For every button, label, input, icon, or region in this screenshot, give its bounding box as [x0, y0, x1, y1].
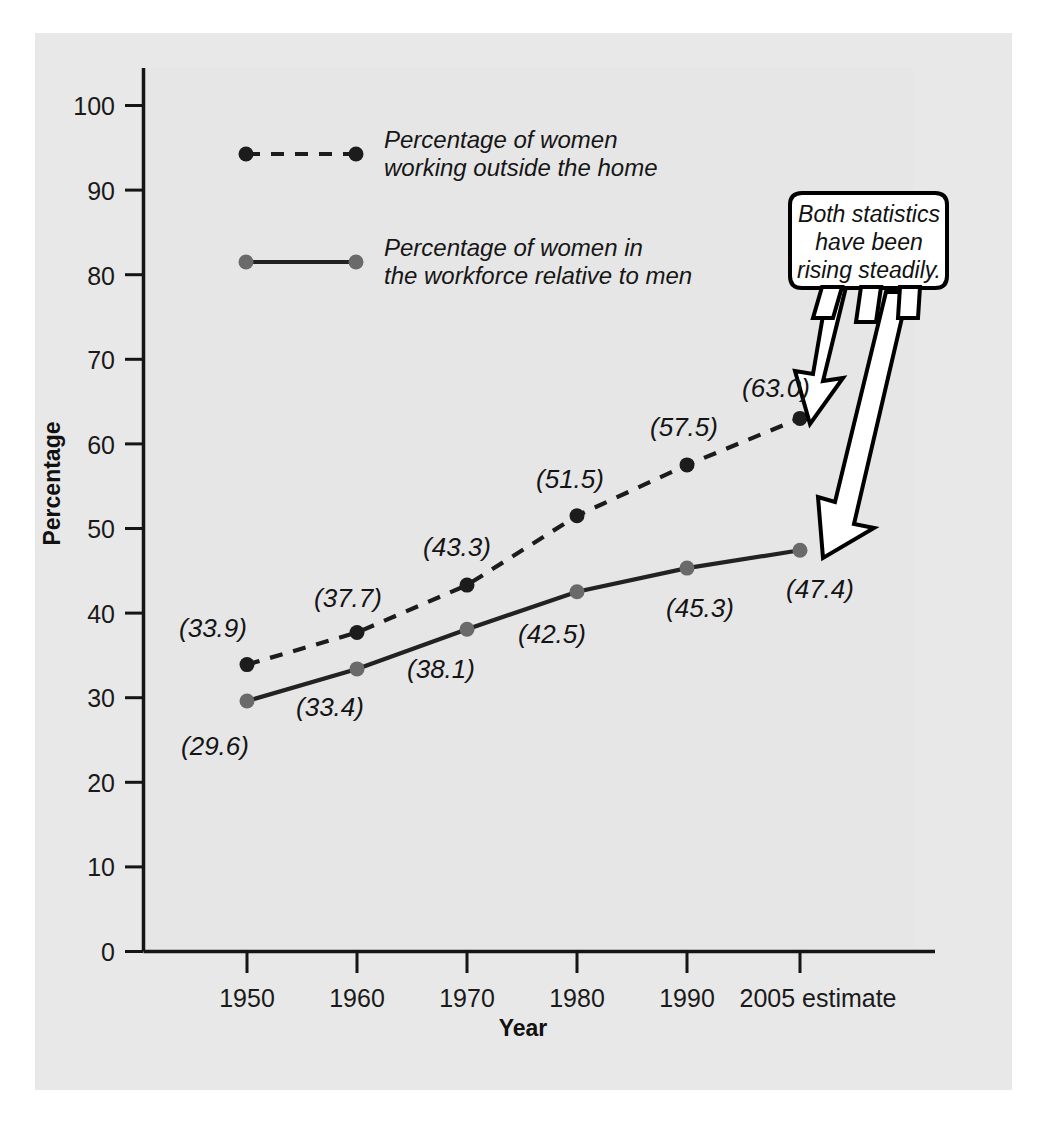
data-label-outside-2005: (63.0) [742, 373, 810, 404]
legend-label-outside-home: Percentage of women working outside the … [384, 126, 658, 183]
chart-figure: 0 10 20 30 40 50 60 70 80 90 100 1950 19… [0, 0, 1053, 1136]
data-label-relative-1950: (29.6) [181, 731, 249, 762]
y-tick-marks [125, 106, 143, 952]
y-tick-label-20: 20 [45, 769, 115, 798]
y-tick-label-70: 70 [45, 346, 115, 375]
y-tick-label-100: 100 [45, 92, 115, 121]
data-label-relative-1970: (38.1) [407, 654, 475, 685]
y-tick-label-80: 80 [45, 262, 115, 291]
x-tick-label-1980: 1980 [549, 984, 605, 1013]
y-axis-title: Percentage [39, 404, 66, 564]
data-label-outside-1960: (37.7) [314, 583, 382, 614]
y-tick-label-10: 10 [45, 853, 115, 882]
x-tick-label-2005: 2005 estimate [739, 984, 896, 1013]
data-label-relative-1960: (33.4) [296, 692, 364, 723]
x-tick-label-1960: 1960 [329, 984, 385, 1013]
y-tick-label-0: 0 [45, 938, 115, 967]
x-tick-label-1950: 1950 [219, 984, 275, 1013]
y-tick-label-90: 90 [45, 177, 115, 206]
x-tick-label-1970: 1970 [439, 984, 495, 1013]
y-tick-label-40: 40 [45, 600, 115, 629]
data-label-outside-1970: (43.3) [423, 532, 491, 563]
data-label-relative-1990: (45.3) [666, 593, 734, 624]
y-tick-label-30: 30 [45, 684, 115, 713]
x-tick-label-1990: 1990 [659, 984, 715, 1013]
x-axis-title: Year [143, 1015, 903, 1042]
data-label-relative-1980: (42.5) [518, 619, 586, 650]
callout-text: Both statistics have been rising steadil… [793, 200, 945, 284]
legend-label-relative-to-men: Percentage of women in the workforce rel… [384, 234, 692, 291]
x-tick-marks [247, 952, 800, 974]
data-label-outside-1950: (33.9) [179, 613, 247, 644]
data-label-outside-1990: (57.5) [650, 412, 718, 443]
data-label-relative-2005: (47.4) [786, 574, 854, 605]
data-label-outside-1980: (51.5) [536, 464, 604, 495]
